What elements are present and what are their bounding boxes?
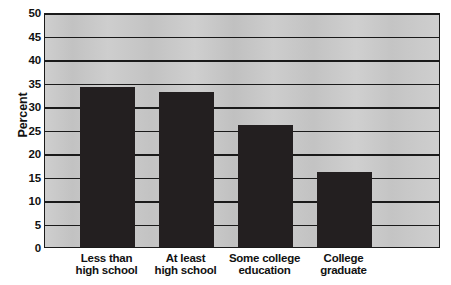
y-tick-label: 40 <box>14 54 41 66</box>
y-tick-label: 5 <box>14 219 41 231</box>
y-tick-label: 25 <box>14 125 41 137</box>
y-tick-label: 10 <box>14 195 41 207</box>
y-tick-label: 35 <box>14 78 41 90</box>
y-tick-label: 50 <box>14 7 41 19</box>
bar <box>159 92 214 247</box>
y-tick-label: 0 <box>14 242 41 254</box>
y-tick-label: 20 <box>14 148 41 160</box>
x-axis-category-labels: Less thanhigh schoolAt leasthigh schoolS… <box>44 252 440 285</box>
bar <box>317 172 372 247</box>
plot-area <box>44 13 440 248</box>
y-axis-tick-labels: 50454035302520151050 <box>14 13 41 248</box>
y-tick-label: 45 <box>14 31 41 43</box>
x-axis-label: Collegegraduate <box>294 252 393 277</box>
bar <box>238 125 293 247</box>
gridline <box>45 60 439 62</box>
bar-chart-figure: Percent 50454035302520151050 Less thanhi… <box>0 0 451 285</box>
bar <box>80 87 135 247</box>
x-axis-label-line: graduate <box>294 264 393 276</box>
gridline <box>45 37 439 39</box>
y-tick-label: 30 <box>14 101 41 113</box>
gridline <box>45 84 439 86</box>
y-tick-label: 15 <box>14 172 41 184</box>
gridline <box>45 13 439 15</box>
x-axis-label-line: College <box>294 252 393 264</box>
